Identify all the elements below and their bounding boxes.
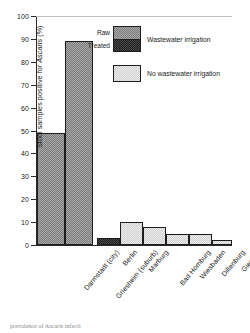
bar-marburg — [120, 222, 143, 245]
y-tick-label-90: 90 — [21, 35, 29, 42]
legend-swatch-treated-half — [114, 40, 140, 51]
legend-row-no-wastewater: No wastewater irrigation — [113, 65, 247, 89]
legend: Raw Treated Wastewater irrigation No was… — [113, 26, 247, 89]
legend-sublabel-treated: Treated — [88, 42, 113, 49]
ascaris-prevalence-bar-chart: 0 10 20 30 40 50 60 70 80 90 100 — [0, 0, 250, 333]
legend-swatch-raw-half — [114, 27, 140, 39]
bar-darmstadt-city — [37, 133, 65, 245]
y-tick-label-50: 50 — [21, 127, 29, 134]
x-axis-line — [36, 245, 232, 246]
y-tick-label-70: 70 — [21, 81, 29, 88]
bar-berlin — [97, 238, 120, 245]
y-axis-title-part2: (%) — [35, 25, 44, 38]
y-tick-label-40: 40 — [21, 150, 29, 157]
y-tick-label-80: 80 — [21, 58, 29, 65]
x-label-berlin: Berlin — [121, 249, 138, 267]
y-tick-label-10: 10 — [21, 219, 29, 226]
x-axis-labels: Darmstadt (city) Griesheim (suburb) Berl… — [36, 247, 232, 317]
y-tick-label-100: 100 — [17, 13, 29, 20]
bar-griesheim-suburb — [65, 41, 93, 245]
y-tick-label-30: 30 — [21, 173, 29, 180]
legend-label-wastewater: Wastewater irrigation — [147, 36, 211, 43]
caption-text: prevalence of Ascaris infecti — [10, 322, 81, 329]
figure-caption-fragment: prevalence of Ascaris infecti — [10, 322, 246, 329]
y-tick-label-0: 0 — [25, 242, 29, 249]
y-axis-title-part1: Stool samples positive for — [35, 63, 44, 148]
legend-swatch-wastewater — [113, 26, 141, 52]
y-axis-title: Stool samples positive for Ascaris (%) — [35, 25, 44, 148]
y-tick-label-60: 60 — [21, 104, 29, 111]
bar-dillenburg — [189, 234, 212, 246]
x-label-darmstadt-city: Darmstadt (city) — [83, 249, 121, 292]
y-tick-0 — [31, 245, 36, 246]
bar-wiesbaden — [166, 234, 189, 246]
y-tick-label-20: 20 — [21, 196, 29, 203]
legend-sublabel-raw: Raw — [97, 29, 113, 36]
legend-row-wastewater: Raw Treated Wastewater irrigation — [113, 26, 247, 56]
legend-label-no-wastewater: No wastewater irrigation — [147, 70, 220, 77]
x-label-griesheim-suburb: Griesheim (suburb) — [114, 249, 158, 300]
bar-giessen — [212, 240, 232, 245]
bar-bad-homburg — [143, 227, 166, 245]
legend-swatch-no-wastewater — [113, 65, 141, 82]
y-axis-title-italic: Ascaris — [35, 39, 44, 63]
